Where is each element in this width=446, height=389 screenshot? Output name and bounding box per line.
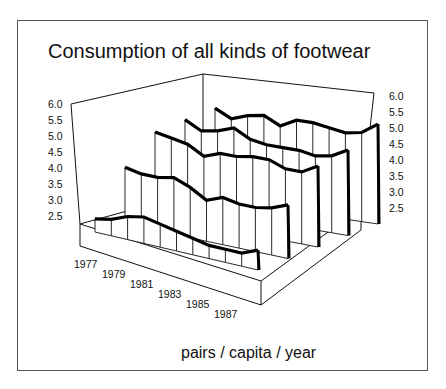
ribbon-plot [0,0,446,389]
ribbons [95,108,379,270]
